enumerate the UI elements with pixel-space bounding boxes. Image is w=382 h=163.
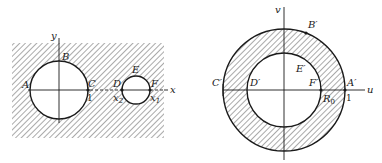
point-f-label: F bbox=[150, 78, 159, 89]
y-axis-label: y bbox=[50, 30, 57, 41]
point-e-prime-label: E′ bbox=[295, 63, 306, 74]
point-c-label: C bbox=[88, 78, 96, 89]
point-e-label: E bbox=[131, 64, 140, 75]
point-a-prime-dot bbox=[343, 88, 346, 91]
point-a-label: A bbox=[21, 79, 29, 90]
point-c-prime-label: C′ bbox=[212, 77, 223, 88]
point-d-label: D bbox=[112, 78, 121, 89]
point-d-prime-label: D′ bbox=[249, 77, 261, 88]
point-b-prime-dot bbox=[304, 31, 307, 34]
left-figure-z-plane: y x A B C D E F 1 x2 x1 bbox=[12, 30, 176, 138]
point-b-label: B bbox=[61, 51, 69, 62]
point-f-prime-dot bbox=[319, 88, 322, 91]
u-axis-label: u bbox=[367, 84, 373, 95]
tick-one-label: 1 bbox=[346, 93, 352, 103]
point-a-prime-label: A′ bbox=[346, 77, 357, 88]
v-axis-label: v bbox=[275, 4, 281, 15]
x-axis-label: x bbox=[170, 84, 176, 95]
right-figure-w-plane: v u B′ C′ D′ E′ F′ A′ R0 1 bbox=[212, 4, 373, 160]
point-b-prime-label: B′ bbox=[307, 19, 318, 30]
conformal-map-diagram: y x A B C D E F 1 x2 x1 v u B′ C′ D′ E′ … bbox=[0, 0, 382, 163]
point-f-prime-label: F′ bbox=[308, 77, 319, 88]
tick-one-label: 1 bbox=[87, 93, 93, 103]
